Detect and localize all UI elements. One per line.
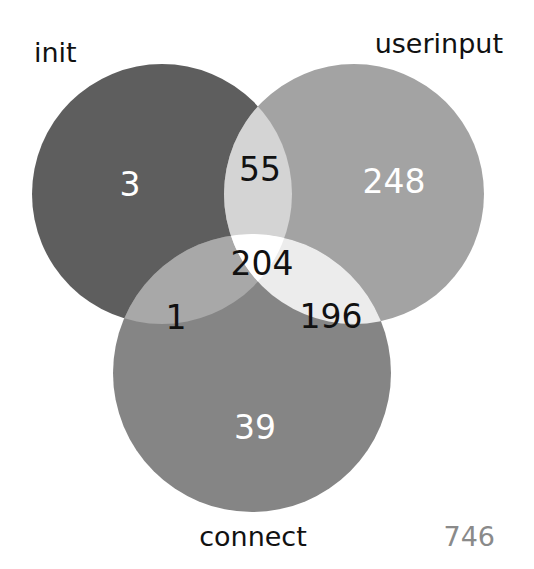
label-init: init	[34, 37, 77, 68]
total-count: 746	[443, 521, 495, 552]
label-connect: connect	[199, 521, 307, 552]
count-connect-only: 39	[234, 408, 276, 447]
count-all: 204	[231, 244, 294, 283]
count-init-connect: 1	[166, 298, 187, 337]
venn-diagram: init userinput connect 3 55 248 204 1 19…	[0, 0, 534, 569]
count-init-only: 3	[120, 165, 141, 204]
count-userinput-only: 248	[363, 162, 426, 201]
count-init-userinput: 55	[239, 150, 281, 189]
label-userinput: userinput	[375, 28, 503, 59]
count-userinput-connect: 196	[300, 297, 363, 336]
